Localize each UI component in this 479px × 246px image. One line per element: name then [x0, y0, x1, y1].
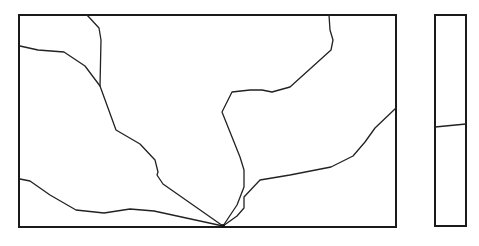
main-frame — [19, 15, 396, 227]
path-right-boundary — [223, 108, 396, 226]
path-center-boundary — [222, 15, 333, 226]
side-panel-frame — [435, 15, 466, 226]
convergence-node — [221, 224, 225, 228]
side-panel-divider — [435, 124, 466, 127]
path-left-lower-boundary — [20, 179, 223, 226]
path-left-upper-boundary — [20, 46, 223, 226]
path-top-left-branch — [87, 15, 101, 86]
boundary-diagram — [0, 0, 479, 246]
